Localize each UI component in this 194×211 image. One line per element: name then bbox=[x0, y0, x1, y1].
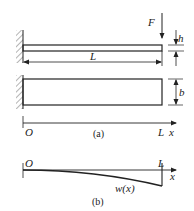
wall-support-side bbox=[16, 30, 23, 63]
length-label: L bbox=[89, 50, 96, 62]
length-dimension: L bbox=[24, 50, 162, 66]
axis-label-a: x bbox=[168, 126, 174, 138]
height-dimension: h bbox=[168, 30, 184, 66]
cantilever-beam-diagram: F L h b bbox=[0, 0, 194, 211]
plan-view: b bbox=[16, 75, 185, 109]
curve-label: w(x) bbox=[115, 182, 135, 195]
width-dimension: b bbox=[168, 79, 185, 105]
deflection-curve bbox=[23, 170, 162, 186]
beam-plan bbox=[23, 79, 162, 105]
caption-b: (b) bbox=[92, 196, 104, 208]
side-view: F L h bbox=[16, 13, 184, 66]
axis-a: O L x (a) bbox=[23, 116, 176, 140]
force-label: F bbox=[147, 16, 155, 28]
origin-label-a: O bbox=[25, 126, 33, 138]
width-label: b bbox=[179, 86, 185, 98]
height-label: h bbox=[178, 32, 184, 44]
axis-label-b: x bbox=[169, 170, 175, 182]
wall-support-plan bbox=[16, 75, 23, 109]
caption-a: (a) bbox=[93, 128, 104, 140]
deflection-plot: O L x w(x) (b) bbox=[23, 157, 176, 208]
end-label-b: L bbox=[157, 157, 164, 169]
end-label-a: L bbox=[157, 126, 164, 138]
origin-label-b: O bbox=[25, 157, 33, 169]
